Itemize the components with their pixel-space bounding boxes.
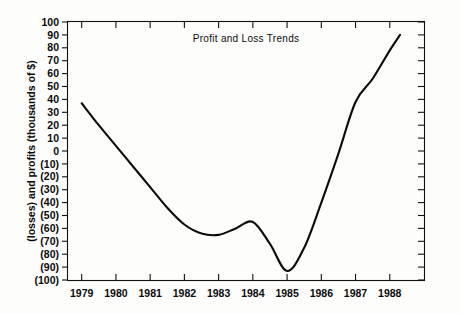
y-axis-label-3: 70 <box>47 54 59 66</box>
y-axis-label-9: 10 <box>47 132 59 144</box>
y-axis-tick-labels: 1009080706050403020100(10)(20)(30)(40)(5… <box>34 16 59 286</box>
y-axis-label-6: 40 <box>47 93 59 105</box>
y-axis-label-16: (60) <box>40 222 59 234</box>
y-axis-label-10: 0 <box>53 145 59 157</box>
x-axis-tick-labels: 1979198019811982198319841985198619871988 <box>70 287 402 299</box>
y-axis-label-15: (50) <box>40 209 59 221</box>
x-axis-label-1985: 1985 <box>275 287 299 299</box>
y-axis-label-7: 30 <box>47 106 59 118</box>
x-axis-label-1986: 1986 <box>310 287 334 299</box>
y-axis-label-8: 20 <box>47 119 59 131</box>
x-axis-label-1988: 1988 <box>378 287 402 299</box>
chart-container: 1009080706050403020100(10)(20)(30)(40)(5… <box>0 0 460 314</box>
y-axis-label-19: (90) <box>40 261 59 273</box>
y-axis-label-11: (10) <box>40 158 59 170</box>
chart-title: Profit and Loss Trends <box>193 33 300 44</box>
x-axis-label-1984: 1984 <box>241 287 265 299</box>
y-axis-label-4: 60 <box>47 67 59 79</box>
y-axis-label-0: 100 <box>41 16 59 28</box>
y-axis-tick-marks <box>62 22 68 280</box>
right-axis-tick-marks <box>418 22 424 280</box>
top-axis-tick-marks <box>82 22 390 28</box>
x-axis-label-1980: 1980 <box>104 287 128 299</box>
data-series-line <box>82 35 400 271</box>
x-axis-label-1983: 1983 <box>207 287 231 299</box>
y-axis-label-2: 80 <box>47 41 59 53</box>
x-axis-label-1981: 1981 <box>138 287 162 299</box>
y-axis-label-13: (30) <box>40 183 59 195</box>
y-axis-label-5: 50 <box>47 80 59 92</box>
y-axis-label-14: (40) <box>40 196 59 208</box>
x-axis-tick-marks <box>82 274 390 280</box>
y-axis-title: (losses) and profits (thousands of $) <box>25 60 37 241</box>
y-axis-label-20: (100) <box>34 274 59 286</box>
y-axis-label-18: (80) <box>40 248 59 260</box>
y-axis-label-17: (70) <box>40 235 59 247</box>
x-axis-label-1987: 1987 <box>344 287 368 299</box>
profit-loss-line-chart: 1009080706050403020100(10)(20)(30)(40)(5… <box>0 0 460 314</box>
x-axis-label-1982: 1982 <box>173 287 197 299</box>
y-axis-label-1: 90 <box>47 29 59 41</box>
y-axis-label-12: (20) <box>40 170 59 182</box>
x-axis-label-1979: 1979 <box>70 287 94 299</box>
